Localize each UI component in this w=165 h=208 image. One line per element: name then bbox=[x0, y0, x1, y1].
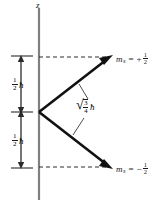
lower-measure-denominator: 2 bbox=[12, 140, 18, 148]
spin-down-vector-shaft bbox=[39, 112, 106, 164]
upper-measure-fraction: 1 2 bbox=[12, 77, 18, 92]
spin-down-label-subscript: s bbox=[123, 168, 126, 175]
radical-body: 3 4 bbox=[83, 99, 89, 115]
z-axis-label: z bbox=[36, 1, 40, 10]
spin-up-label-sign: + bbox=[137, 55, 142, 64]
spin-down-label-symbol: m bbox=[116, 165, 123, 174]
upper-measure-denominator: 2 bbox=[12, 84, 18, 92]
lower-leader-line bbox=[73, 118, 84, 135]
upper-measure-numerator: 1 bbox=[12, 77, 18, 84]
lower-measure-fraction: 1 2 bbox=[12, 133, 18, 148]
lower-measure-numerator: 1 bbox=[12, 133, 18, 140]
spin-down-label-sign: − bbox=[137, 165, 142, 174]
magnitude-denominator: 4 bbox=[83, 107, 88, 115]
spin-up-vector-shaft bbox=[39, 60, 106, 112]
spin-down-fraction-denominator: 2 bbox=[143, 168, 148, 176]
spin-up-label-equals: = bbox=[129, 55, 134, 64]
spin-vector-diagram: z ms = + 1 2 ms = − 1 2 1 2 ħ 1 2 ħ bbox=[0, 0, 165, 208]
upper-measure-hbar-icon: ħ bbox=[19, 80, 24, 90]
lower-half-hbar-label: 1 2 ħ bbox=[12, 133, 24, 148]
upper-half-hbar-label: 1 2 ħ bbox=[12, 77, 24, 92]
spin-magnitude-label: √ 3 4 ħ bbox=[76, 99, 94, 115]
radical-icon: √ 3 4 bbox=[76, 99, 88, 115]
spin-down-label: ms = − 1 2 bbox=[116, 162, 148, 176]
lower-measure-arrowhead-top bbox=[18, 110, 24, 117]
spin-up-label: ms = + 1 2 bbox=[116, 52, 148, 66]
spin-up-label-symbol: m bbox=[116, 55, 123, 64]
spin-up-label-fraction: 1 2 bbox=[143, 52, 148, 66]
magnitude-hbar-icon: ħ bbox=[90, 102, 95, 112]
spin-down-label-equals: = bbox=[129, 165, 134, 174]
lower-measure-hbar-icon: ħ bbox=[19, 136, 24, 146]
magnitude-fraction: 3 4 bbox=[83, 100, 88, 114]
spin-up-fraction-denominator: 2 bbox=[143, 58, 148, 66]
spin-up-label-subscript: s bbox=[123, 58, 126, 65]
spin-down-label-fraction: 1 2 bbox=[143, 162, 148, 176]
